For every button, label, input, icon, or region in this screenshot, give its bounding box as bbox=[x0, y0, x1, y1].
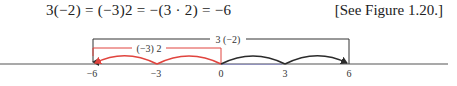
red-arcs bbox=[95, 56, 221, 64]
tick-label-0: 0 bbox=[219, 68, 224, 79]
number-line-figure: 3 (−2) (−3) 2 −6 −3 0 3 6 bbox=[0, 0, 457, 86]
tick-label-3: 3 bbox=[283, 68, 288, 79]
tick-label-neg6: −6 bbox=[87, 68, 98, 79]
tick-labels: −6 −3 0 3 6 bbox=[87, 68, 352, 79]
red-bracket: (−3) 2 bbox=[93, 43, 221, 65]
tick-label-neg3: −3 bbox=[151, 68, 162, 79]
black-bracket-label: 3 (−2) bbox=[216, 34, 241, 46]
tick-label-6: 6 bbox=[347, 68, 352, 79]
red-bracket-label: (−3) 2 bbox=[137, 43, 162, 55]
black-arcs bbox=[221, 56, 347, 64]
